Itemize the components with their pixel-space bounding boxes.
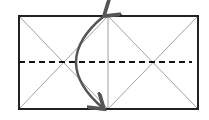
fold-diagram xyxy=(0,0,209,120)
